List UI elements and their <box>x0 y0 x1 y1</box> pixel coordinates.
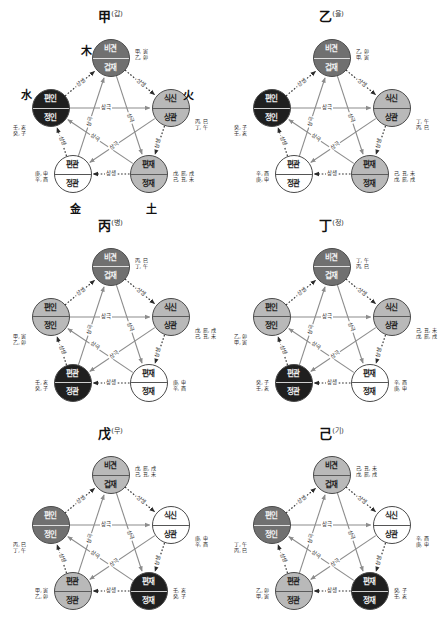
node-label-top: 편인 <box>254 90 290 109</box>
annotation-line: 戊, 辰, 戌 <box>195 327 216 333</box>
pentagram-stage: 상생상생상생상생상생상극상극상극상극상극비견겁재乙, 卯甲, 寅식신상관丁, 午… <box>221 0 442 208</box>
annotation-line: 丁, 午 <box>13 547 26 553</box>
node-label-top: 식신 <box>153 507 189 526</box>
annotation-line: 己, 丑, 未 <box>173 176 194 182</box>
node-annotation-right: 丙, 巳丁, 午 <box>195 118 208 131</box>
edge-label-sangsaeng-bottom: 상생 <box>105 171 117 177</box>
node-label-top: 비견 <box>314 457 350 476</box>
panel-byeong: 丙(병)상생상생상생상생상생상극상극상극상극상극비견겁재丙, 巳丁, 午식신상관… <box>0 209 221 417</box>
node-right[interactable]: 식신상관 <box>373 89 411 127</box>
node-bottom-right[interactable]: 편재정재 <box>351 155 389 193</box>
annotation-line: 辛, 酉 <box>35 176 48 182</box>
panel-gap: 甲(갑)상생상생상생상생상생상극상극상극상극상극비견겁재甲, 寅乙, 卯木식신상… <box>0 0 221 208</box>
annotation-line: 丁, 午 <box>135 263 148 269</box>
node-right[interactable]: 식신상관 <box>152 298 190 336</box>
node-left[interactable]: 편인정인 <box>32 506 70 544</box>
annotation-line: 甲, 寅 <box>356 54 369 60</box>
annotation-line: 壬, 亥 <box>394 593 407 599</box>
pentagram-stage: 상생상생상생상생상생상극상극상극상극상극비견겁재丙, 巳丁, 午식신상관戊, 辰… <box>0 209 221 417</box>
node-bottom-right[interactable]: 편재정재 <box>351 364 389 402</box>
node-top[interactable]: 비견겁재 <box>92 456 130 494</box>
annotation-line: 壬, 亥 <box>234 130 247 136</box>
edge-label-sanggeuk-horizontal: 상극 <box>100 522 112 528</box>
pentagram-stage: 상생상생상생상생상생상극상극상극상극상극비견겁재丁, 午丙, 巳식신상관己, 丑… <box>221 209 442 417</box>
edge-label-sangsaeng-bottom: 상생 <box>326 588 338 594</box>
node-bottom-left[interactable]: 편관정관 <box>275 364 313 402</box>
node-bottom-right[interactable]: 편재정재 <box>130 364 168 402</box>
annotation-line: 乙, 卯 <box>135 54 148 60</box>
node-label-top: 편인 <box>33 507 69 526</box>
node-bottom-right[interactable]: 편재정재 <box>351 572 389 610</box>
node-label-top: 편관 <box>276 156 312 175</box>
node-right[interactable]: 식신상관 <box>152 506 190 544</box>
node-label-top: 식신 <box>374 90 410 109</box>
node-annotation-bottom-left: 癸, 子壬, 亥 <box>256 379 269 392</box>
annotation-line: 辛, 酉 <box>195 541 208 547</box>
annotation-line: 甲, 寅 <box>256 593 269 599</box>
annotation-line: 庚, 申 <box>173 379 186 385</box>
node-left[interactable]: 편인정인 <box>32 89 70 127</box>
node-annotation-right: 丁, 午丙, 巳 <box>416 118 429 131</box>
node-bottom-left[interactable]: 편관정관 <box>275 572 313 610</box>
annotation-line: 丙, 巳 <box>356 263 369 269</box>
edge-label-sanggeuk-horizontal: 상극 <box>321 314 333 320</box>
annotation-line: 乙, 卯 <box>35 593 48 599</box>
node-label-top: 편관 <box>55 573 91 592</box>
annotation-line: 戊, 辰, 戌 <box>416 333 437 339</box>
node-top[interactable]: 비견겁재 <box>92 39 130 77</box>
edge-label-sanggeuk-horizontal: 상극 <box>321 522 333 528</box>
annotation-line: 辛, 酉 <box>394 379 407 385</box>
node-right[interactable]: 식신상관 <box>373 298 411 336</box>
node-annotation-right: 己, 丑, 未戊, 辰, 戌 <box>416 327 437 340</box>
annotation-line: 甲, 寅 <box>234 339 247 345</box>
pentagram-stage: 상생상생상생상생상생상극상극상극상극상극비견겁재戊, 辰, 戌己, 丑, 未식신… <box>0 417 221 625</box>
node-top[interactable]: 비견겁재 <box>313 248 351 286</box>
node-top[interactable]: 비견겁재 <box>313 39 351 77</box>
annotation-line: 己, 丑, 未 <box>195 333 216 339</box>
node-bottom-left[interactable]: 편관정관 <box>54 364 92 402</box>
node-annotation-bottom-left: 乙, 卯甲, 寅 <box>256 587 269 600</box>
node-bottom-left[interactable]: 편관정관 <box>54 155 92 193</box>
node-label-top: 비견 <box>93 40 129 59</box>
node-bottom-left[interactable]: 편관정관 <box>54 572 92 610</box>
node-bottom-left[interactable]: 편관정관 <box>275 155 313 193</box>
annotation-line: 庚, 申 <box>256 176 269 182</box>
node-left[interactable]: 편인정인 <box>253 298 291 336</box>
panel-eul: 乙(을)상생상생상생상생상생상극상극상극상극상극비견겁재乙, 卯甲, 寅식신상관… <box>221 0 442 208</box>
figure-sheet: 甲(갑)상생상생상생상생상생상극상극상극상극상극비견겁재甲, 寅乙, 卯木식신상… <box>0 0 443 626</box>
node-left[interactable]: 편인정인 <box>253 89 291 127</box>
annotation-line: 庚, 申 <box>394 385 407 391</box>
annotation-line: 庚, 申 <box>416 541 429 547</box>
pentagram-stage: 상생상생상생상생상생상극상극상극상극상극비견겁재甲, 寅乙, 卯木식신상관丙, … <box>0 0 221 208</box>
node-top[interactable]: 비견겁재 <box>313 456 351 494</box>
panel-gi: 己(기)상생상생상생상생상생상극상극상극상극상극비견겁재己, 丑, 未戊, 辰,… <box>221 417 442 625</box>
node-annotation-right: 戊, 辰, 戌己, 丑, 未 <box>195 327 216 340</box>
edge-label-sangsaeng-bottom: 상생 <box>326 380 338 386</box>
annotation-line: 丁, 午 <box>195 124 208 130</box>
annotation-line: 丙, 巳 <box>234 547 247 553</box>
node-label-top: 편재 <box>352 573 388 592</box>
node-top[interactable]: 비견겁재 <box>92 248 130 286</box>
node-left[interactable]: 편인정인 <box>253 506 291 544</box>
panel-jeong: 丁(정)상생상생상생상생상생상극상극상극상극상극비견겁재丁, 午丙, 巳식신상관… <box>221 209 442 417</box>
edge-label-sanggeuk-horizontal: 상극 <box>100 314 112 320</box>
annotation-line: 癸, 子 <box>173 593 186 599</box>
node-bottom-right[interactable]: 편재정재 <box>130 155 168 193</box>
annotation-line: 壬, 亥 <box>256 385 269 391</box>
node-annotation-bottom-left: 庚, 申辛, 酉 <box>35 170 48 183</box>
annotation-line: 戊, 辰, 戌 <box>356 471 377 477</box>
node-bottom-right[interactable]: 편재정재 <box>130 572 168 610</box>
panel-mu: 戊(무)상생상생상생상생상생상극상극상극상극상극비견겁재戊, 辰, 戌己, 丑,… <box>0 417 221 625</box>
element-label-right: 火 <box>183 86 194 102</box>
node-label-top: 편재 <box>352 156 388 175</box>
node-annotation-top: 戊, 辰, 戌己, 丑, 未 <box>135 465 156 478</box>
node-annotation-bottom-left: 壬, 亥癸, 子 <box>35 379 48 392</box>
node-label-top: 편관 <box>276 573 312 592</box>
node-label-top: 비견 <box>93 457 129 476</box>
node-label-top: 편재 <box>131 156 167 175</box>
node-label-top: 비견 <box>314 40 350 59</box>
node-left[interactable]: 편인정인 <box>32 298 70 336</box>
node-right[interactable]: 식신상관 <box>373 506 411 544</box>
annotation-line: 己, 丑, 未 <box>135 471 156 477</box>
annotation-line: 丙, 巳 <box>416 124 429 130</box>
